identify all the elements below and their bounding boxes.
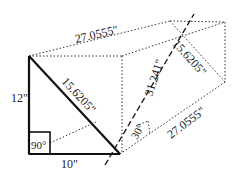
label-dashed-diagonal: 31.241" xyxy=(142,57,167,97)
geometry-diagram: 27.0555" 15.6205" 15.6205" 31.241" 12" 1… xyxy=(0,0,242,179)
label-bottom-edge: 27.0555" xyxy=(164,104,208,142)
label-top-edge: 27.0555" xyxy=(74,22,120,46)
label-horizontal-leg: 10" xyxy=(61,157,78,171)
label-right-angle: 90° xyxy=(31,139,46,151)
label-vertical-leg: 12" xyxy=(11,91,28,105)
